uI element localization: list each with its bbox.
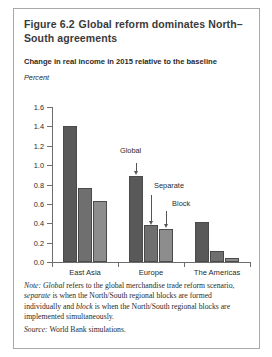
y-tick-label: 1.6 — [16, 103, 44, 112]
figure-subtitle: Change in real income in 2015 relative t… — [24, 57, 254, 67]
x-tick-mark — [118, 262, 119, 267]
note-label: Note: — [24, 281, 41, 290]
source-text: World Bank simulations. — [48, 325, 126, 334]
y-tick-label: 0.8 — [16, 180, 44, 189]
bar-global-the-americas — [195, 222, 210, 262]
annotation-label-global: Global — [120, 146, 141, 155]
y-tick-mark — [47, 204, 53, 205]
annotation-label-separate: Separate — [154, 181, 184, 190]
y-tick-label: 0.6 — [16, 199, 44, 208]
figure-note: Note: Global refers to the global mercha… — [24, 281, 248, 322]
annotation-arrow-line-separate — [151, 195, 152, 221]
x-category-label-europe: Europe — [139, 268, 164, 277]
y-tick-label: 1.2 — [16, 141, 44, 150]
chart-plot-area: 0.00.20.40.60.81.01.21.41.6 East AsiaEur… — [24, 87, 252, 277]
bar-block-east-asia — [93, 201, 108, 262]
bar-separate-europe — [144, 225, 159, 262]
note-term-global: Global — [43, 281, 64, 290]
y-tick-mark — [47, 243, 53, 244]
note-text-1: refers to the global merchandise trade r… — [64, 281, 234, 290]
x-tick-mark — [184, 262, 185, 267]
y-tick-mark — [47, 165, 53, 166]
x-axis-line — [52, 262, 250, 263]
y-tick-mark — [47, 185, 53, 186]
bar-global-europe — [129, 176, 144, 262]
y-tick-label: 1.4 — [16, 122, 44, 131]
bar-block-the-americas — [225, 258, 240, 262]
figure-source: Source: World Bank simulations. — [24, 325, 248, 335]
bar-separate-the-americas — [210, 251, 225, 262]
x-category-label-the-americas: The Americas — [194, 268, 240, 277]
figure-number: Figure 6.2 — [24, 18, 75, 30]
figure-frame: Figure 6.2Global reform dominates North–… — [13, 8, 260, 349]
y-tick-mark — [47, 146, 53, 147]
x-tick-mark — [52, 262, 53, 267]
bar-global-east-asia — [63, 126, 78, 262]
source-label: Source: — [24, 325, 48, 334]
annotation-arrow-head-separate — [149, 221, 153, 225]
y-tick-label: 0.2 — [16, 238, 44, 247]
note-term-separate: separate — [24, 291, 50, 300]
y-tick-label: 0.4 — [16, 219, 44, 228]
x-tick-mark — [250, 262, 251, 267]
annotation-arrow-head-block — [164, 224, 168, 228]
y-tick-label: 1.0 — [16, 161, 44, 170]
y-tick-mark — [47, 107, 53, 108]
note-term-block: block — [76, 302, 93, 311]
annotation-arrow-line-block — [166, 211, 167, 225]
bar-block-europe — [159, 229, 174, 262]
bar-separate-east-asia — [78, 188, 93, 262]
figure-title: Figure 6.2Global reform dominates North–… — [24, 17, 252, 45]
annotation-label-block: Block — [172, 199, 190, 208]
y-axis-unit-label: Percent — [24, 73, 49, 82]
y-tick-mark — [47, 126, 53, 127]
y-tick-label: 0.0 — [16, 258, 44, 267]
annotation-arrow-head-global — [134, 171, 138, 175]
y-tick-mark — [47, 223, 53, 224]
x-category-label-east-asia: East Asia — [69, 268, 101, 277]
